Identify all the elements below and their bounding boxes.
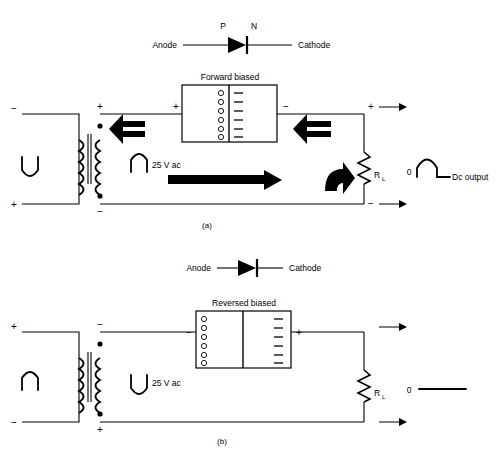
output-arrow-a-top-head (399, 103, 407, 111)
primary-bottom-sign-b: − (11, 417, 17, 428)
polarity-dot-a-top (97, 123, 102, 128)
cathode-label-a: Cathode (298, 40, 330, 50)
output-arrow-a-bottom-head (399, 200, 407, 208)
current-arrow-a-bottom-head (264, 170, 282, 190)
n-region-label: N (251, 21, 257, 31)
diode-triangle-a (228, 37, 246, 53)
transformer-a: − + (11, 103, 103, 210)
output-arrows-a (379, 103, 407, 208)
diode-triangle-b (238, 260, 256, 276)
source-label-a: 25 V ac (152, 160, 182, 170)
output-label-a: Dc output (452, 172, 489, 182)
load-label-sub-b: L (382, 394, 386, 400)
source-label-b: 25 V ac (152, 378, 182, 388)
polarity-dot-a-bottom (97, 193, 102, 198)
forward-biased-box: Forward biased + − (173, 72, 289, 142)
p-region-label: P (220, 21, 226, 31)
secondary-waveform-b (131, 375, 147, 394)
resistor-zigzag-a (358, 152, 370, 184)
output-zero-label-b: 0 (407, 385, 412, 395)
forward-biased-title: Forward biased (201, 72, 260, 82)
load-label-sub-a: L (382, 176, 386, 182)
secondary-bottom-sign-b: + (97, 424, 103, 435)
output-bottom-sign-a: − (368, 198, 374, 209)
forward-box-right-sign: − (283, 101, 289, 112)
half-wave-rectifier-figure: Anode Cathode P N Forward biased (0, 0, 496, 458)
diode-symbol-panel-a: Anode Cathode P N (152, 21, 330, 54)
secondary-coil-a (96, 140, 101, 195)
forward-holes-group (218, 90, 223, 139)
primary-waveform-b (22, 372, 38, 390)
primary-bottom-sign-a: + (11, 199, 17, 210)
secondary-bottom-sign-a: − (97, 206, 103, 217)
load-label-a: R (374, 170, 380, 180)
primary-loop-b (22, 332, 79, 422)
reversed-biased-box: Reversed biased − + (186, 298, 302, 368)
current-arrows-a (109, 114, 355, 194)
primary-loop-a (22, 114, 79, 204)
load-label-b: R (374, 388, 380, 398)
current-arrow-a-curved (325, 162, 355, 194)
dc-output-a: 0 Dc output (407, 160, 489, 183)
figure-root: Anode Cathode P N Forward biased (0, 0, 496, 458)
reverse-holes-group (201, 316, 206, 365)
reversed-biased-title: Reversed biased (212, 298, 276, 308)
dc-output-b: 0 (407, 385, 466, 395)
output-waveform-a (417, 160, 450, 178)
secondary-source-a: 25 V ac (131, 154, 182, 172)
secondary-top-sign-b: − (97, 319, 103, 330)
secondary-waveform-a (131, 154, 147, 172)
polarity-dot-b-bottom (97, 411, 102, 416)
diode-symbol-panel-b: Anode Cathode (186, 259, 321, 277)
circuit-wires-b: − + (97, 319, 364, 435)
anode-label-a: Anode (152, 40, 177, 50)
forward-electrons-group (234, 93, 243, 137)
secondary-top-sign-a: + (97, 101, 103, 112)
anode-label-b: Anode (186, 263, 211, 273)
circuit-wires-a: + − + − (97, 101, 374, 217)
current-arrow-a-top-left (109, 114, 145, 144)
resistor-zigzag-b (358, 370, 370, 402)
output-arrow-b-bottom-head (399, 418, 407, 426)
output-arrows-b (379, 323, 407, 426)
transformer-b: + − (11, 321, 103, 428)
cathode-label-b: Cathode (289, 263, 321, 273)
polarity-dot-b-top (97, 341, 102, 346)
output-zero-label-a: 0 (407, 167, 412, 177)
current-arrow-a-top-right (293, 114, 331, 144)
panel-a-label: (a) (202, 221, 212, 230)
output-top-sign-a: + (368, 101, 374, 112)
primary-coil-b (79, 358, 84, 413)
primary-top-sign-b: + (11, 321, 17, 332)
load-resistor-a: R L (358, 152, 386, 184)
secondary-source-b: 25 V ac (131, 375, 182, 394)
panel-b-label: (b) (217, 437, 227, 446)
reverse-electrons-group (274, 319, 283, 363)
primary-top-sign-a: − (11, 103, 17, 114)
primary-waveform-a (22, 157, 38, 176)
output-arrow-b-top-head (399, 323, 407, 331)
primary-coil-a (79, 140, 84, 195)
current-arrow-a-bottom-shaft (168, 175, 264, 184)
secondary-coil-b (96, 358, 101, 413)
forward-box-left-sign: + (173, 101, 179, 112)
load-resistor-b: R L (358, 370, 386, 402)
